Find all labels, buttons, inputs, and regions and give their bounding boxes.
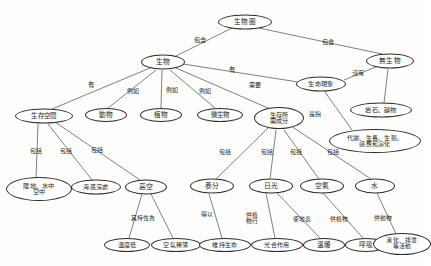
concept-node-n8[interactable]: 微生物 (197, 108, 243, 122)
concept-node-n17[interactable]: 空氣 (300, 179, 344, 194)
edge-label-e3: 有 (88, 82, 94, 89)
edge-label-e15: 包括 (261, 149, 273, 155)
concept-node-n11[interactable]: 代謝、生長、生殖、 感應和演化 (329, 129, 421, 153)
edge-label-e2: 包含 (322, 39, 334, 45)
edge-label-e17: 包括 (327, 149, 339, 155)
edge-label-e4: 例如 (127, 88, 139, 94)
concept-node-n10[interactable]: 岩石、礦物 (350, 103, 412, 118)
concept-node-n5[interactable]: 生存空間 (15, 109, 73, 124)
edge-label-e8: 需要 (249, 82, 261, 88)
concept-node-n23[interactable]: 溫暖 (303, 238, 345, 252)
concept-node-n25[interactable]: 消化、排泄 等活動 (373, 233, 431, 255)
edge-label-e11: 包括 (30, 148, 42, 154)
edge-n1-n3 (259, 28, 382, 54)
edge-n18-n25 (377, 193, 396, 234)
concept-node-n13[interactable]: 海底深處 (71, 180, 121, 195)
concept-node-n4[interactable]: 生命現象 (296, 77, 346, 92)
edge-label-e7: 有 (229, 67, 235, 74)
edge-n4-n11 (325, 92, 352, 130)
concept-node-n19[interactable]: 溫度低 (104, 238, 150, 252)
concept-node-n15[interactable]: 養分 (190, 179, 234, 194)
concept-node-n7[interactable]: 植物 (140, 108, 182, 122)
edge-label-e19: 得以 (201, 212, 213, 218)
edge-label-e1: 包含 (194, 37, 206, 43)
edge-label-e14: 包括 (219, 149, 231, 155)
concept-node-n21[interactable]: 維持生命 (199, 238, 251, 252)
edge-label-e20: 供植 物行 (246, 213, 258, 225)
edge-label-e22: 供植物 (330, 217, 349, 223)
concept-node-n1[interactable]: 生物圈 (218, 15, 272, 30)
concept-node-n14[interactable]: 高空 (125, 180, 167, 195)
edge-label-e21: 使地表 (293, 217, 312, 223)
concept-node-n9[interactable]: 生存所 需成分 (254, 107, 304, 129)
edge-label-e13: 包括 (91, 147, 103, 153)
concept-node-n12[interactable]: 陸地、水中 空中 (6, 177, 72, 201)
edge-label-e9: 沒有 (352, 70, 364, 76)
edge-label-e16: 包括 (290, 149, 302, 155)
edge-label-e6: 例如 (199, 88, 211, 94)
concept-node-n16[interactable]: 日光 (249, 179, 293, 194)
edge-n3-n10 (384, 69, 388, 103)
concept-node-n2[interactable]: 生物 (141, 55, 185, 70)
concept-node-n22[interactable]: 光合作用 (251, 238, 303, 252)
edge-label-e18: 其特性為 (131, 216, 156, 222)
edge-n16-n22 (266, 193, 275, 238)
edge-label-e23: 供動物 (374, 216, 393, 222)
edge-label-e12: 包括 (60, 148, 72, 154)
edge-label-e10: 是指 (309, 111, 321, 117)
edge-n2-n4 (183, 64, 298, 82)
edge-label-e5: 例如 (166, 87, 178, 93)
concept-node-n3[interactable]: 無生物 (366, 54, 414, 69)
edge-n2-n7 (161, 70, 162, 108)
concept-node-n18[interactable]: 水 (355, 179, 395, 194)
concept-node-n20[interactable]: 空氣稀薄 (151, 238, 201, 252)
concept-node-n6[interactable]: 動物 (85, 108, 127, 122)
